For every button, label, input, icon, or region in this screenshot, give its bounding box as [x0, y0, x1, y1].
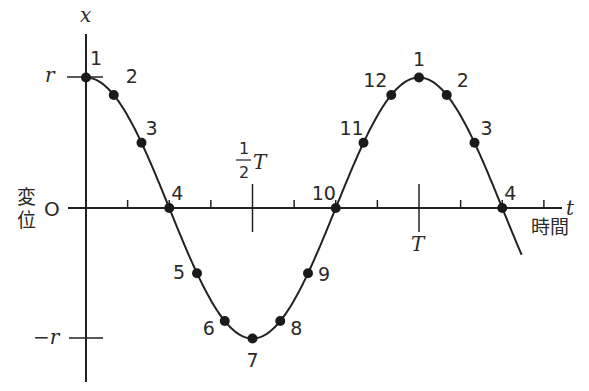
phase-point-dot [137, 138, 147, 148]
phase-point-label: 7 [247, 349, 259, 371]
phase-point-label: 3 [481, 117, 493, 139]
period-label: T [411, 232, 426, 256]
phase-point-label: 2 [457, 69, 469, 91]
phase-point-dot [497, 203, 507, 213]
phase-point-dot [220, 316, 230, 326]
phase-point-label: 4 [171, 182, 183, 204]
x-axis-label: x [80, 3, 91, 27]
phase-point-dot [192, 268, 202, 278]
phase-point-label: 8 [290, 317, 302, 339]
half-period-numerator: 1 [239, 139, 249, 158]
displacement-caption-1: 変 [17, 186, 36, 208]
displacement-caption-2: 位 [17, 209, 36, 231]
origin-label: O [44, 197, 60, 221]
r-label: r [45, 63, 56, 87]
phase-point-dot [414, 73, 424, 83]
phase-point-label: 1 [90, 47, 102, 69]
phase-point-label: 5 [173, 261, 185, 283]
phase-point-dot [275, 316, 285, 326]
phase-point-dot [303, 268, 313, 278]
phase-point-dot [109, 90, 119, 100]
phase-point-dot [442, 90, 452, 100]
phase-point-label: 4 [504, 182, 516, 204]
neg-r-label: −r [33, 325, 61, 349]
phase-point-label: 12 [363, 69, 387, 91]
phase-point-label: 9 [318, 263, 330, 285]
time-caption: 時間 [531, 216, 569, 238]
phase-point-label: 11 [340, 117, 364, 139]
phase-point-dot [359, 138, 369, 148]
phase-point-label: 1 [413, 48, 425, 70]
phase-point-label: 6 [203, 317, 215, 339]
phase-point-label: 2 [126, 65, 138, 87]
shm-displacement-diagram: 1234567891011121234 x t 時間 変 位 O r −r 1 … [0, 0, 589, 391]
phase-point-dot [164, 203, 174, 213]
half-period-denominator: 2 [239, 163, 249, 182]
phase-point-label: 10 [312, 182, 336, 204]
half-period-T: T [253, 150, 268, 174]
phase-point-dot [248, 334, 258, 344]
phase-point-dot [81, 73, 91, 83]
phase-point-dot [386, 90, 396, 100]
phase-point-dot [331, 203, 341, 213]
phase-point-dot [470, 138, 480, 148]
phase-point-label: 3 [146, 117, 158, 139]
